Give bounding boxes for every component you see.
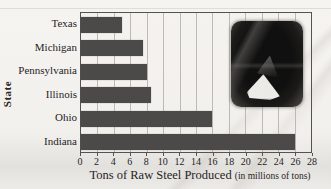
bar-texas: [81, 17, 122, 33]
category-label-texas: Texas: [0, 12, 77, 36]
gridline-x-14: [196, 13, 197, 152]
x-tick-label-12: 12: [174, 156, 184, 167]
x-tick-label-20: 20: [241, 156, 251, 167]
bar-pennsylvania: [81, 64, 147, 80]
x-axis-title-unit-text: (in millions of tons): [235, 171, 311, 181]
gridline-x-2: [97, 13, 98, 152]
x-axis-title-main: Tons of Raw Steel Produced: [89, 168, 231, 182]
x-tick-label-0: 0: [78, 156, 83, 167]
molten-pour-glow: [247, 74, 280, 100]
x-tick-label-4: 4: [111, 156, 116, 167]
x-tick-label-22: 22: [257, 156, 267, 167]
category-label-ohio: Ohio: [0, 106, 77, 130]
gridline-x-10: [163, 13, 164, 152]
x-axis-title-unit: (in millions of tons): [235, 171, 311, 181]
x-tick-label-26: 26: [290, 156, 300, 167]
x-tick-label-10: 10: [158, 156, 168, 167]
x-tick-label-28: 28: [307, 156, 317, 167]
category-label-indiana: Indiana: [0, 130, 77, 154]
bar-ohio: [81, 111, 212, 127]
bar-indiana: [81, 134, 295, 150]
steel-spark-streak: [257, 55, 279, 77]
category-label-pennsylvania: Pennsylvania: [0, 59, 77, 83]
scan-artifact-line: [0, 8, 331, 9]
steel-production-chart-figure: State TexasMichiganPennsylvaniaIllinoisO…: [0, 0, 331, 189]
bar-illinois: [81, 87, 151, 103]
x-axis-title: Tons of Raw Steel Produced (in millions …: [80, 168, 320, 183]
gridline-x-16: [212, 13, 213, 152]
gridline-x-8: [147, 13, 148, 152]
x-tick-label-2: 2: [94, 156, 99, 167]
x-tick-label-14: 14: [191, 156, 201, 167]
x-tick-label-18: 18: [224, 156, 234, 167]
category-label-michigan: Michigan: [0, 36, 77, 60]
gridline-x-6: [130, 13, 131, 152]
bar-michigan: [81, 40, 143, 56]
category-label-column: TexasMichiganPennsylvaniaIllinoisOhioInd…: [0, 12, 77, 153]
x-tick-label-24: 24: [274, 156, 284, 167]
x-tick-label-8: 8: [144, 156, 149, 167]
gridline-x-4: [114, 13, 115, 152]
gridline-x-18: [229, 13, 230, 152]
x-tick-label-16: 16: [208, 156, 218, 167]
x-tick-label-6: 6: [127, 156, 132, 167]
plot-area: [80, 12, 312, 153]
molten-steel-pour-photo: [231, 21, 303, 107]
category-label-illinois: Illinois: [0, 83, 77, 107]
gridline-x-12: [180, 13, 181, 152]
